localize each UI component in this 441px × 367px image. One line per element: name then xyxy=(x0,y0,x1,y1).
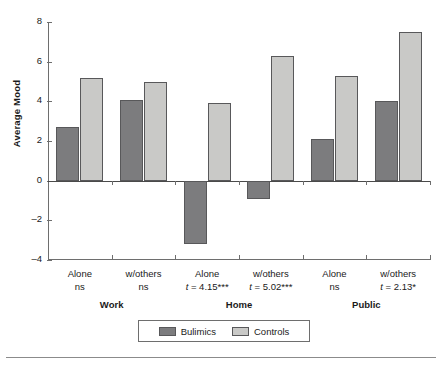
y-tick-4: 4 xyxy=(47,101,52,102)
zero-tick-4 xyxy=(366,181,367,185)
group-label-work: Work xyxy=(62,299,162,310)
zero-tick-1 xyxy=(175,181,176,185)
y-tick-neg2: –2 xyxy=(47,220,52,221)
bar-controls-3 xyxy=(271,56,294,181)
y-tick-label-6: 6 xyxy=(12,55,42,66)
category-name-3: w/others xyxy=(253,268,289,279)
x-tick-5 xyxy=(430,255,431,260)
y-tick-8: 8 xyxy=(47,22,52,23)
zero-tick-0 xyxy=(112,181,113,185)
chart-legend: Bulimics Controls xyxy=(138,320,310,342)
legend-swatch-controls xyxy=(232,327,249,336)
bar-controls-2 xyxy=(208,103,231,180)
y-tick-label-neg2: –2 xyxy=(12,213,42,224)
category-name-1: w/others xyxy=(126,268,162,279)
bar-bulimics-4 xyxy=(311,139,334,181)
bar-bulimics-5 xyxy=(375,101,398,180)
x-tick-3 xyxy=(303,255,304,260)
y-tick-6: 6 xyxy=(47,62,52,63)
plot-area: 8 6 4 2 0 –2 –4 xyxy=(48,22,430,260)
x-tick-2 xyxy=(239,255,240,260)
legend-item-controls: Controls xyxy=(232,326,289,337)
y-tick-label-4: 4 xyxy=(12,94,42,105)
y-tick-label-neg4: –4 xyxy=(12,253,42,264)
zero-tick-3 xyxy=(303,181,304,185)
x-tick-1 xyxy=(175,255,176,260)
y-tick-label-2: 2 xyxy=(12,134,42,145)
bar-bulimics-1 xyxy=(120,100,143,180)
zero-tick-5 xyxy=(430,181,431,185)
y-tick-label-0: 0 xyxy=(12,174,42,185)
bar-bulimics-0 xyxy=(56,127,79,181)
category-stat-5: t = 2.13* xyxy=(348,280,441,293)
bar-controls-5 xyxy=(399,32,422,181)
zero-tick-2 xyxy=(239,181,240,185)
group-label-home: Home xyxy=(189,299,289,310)
x-tick-4 xyxy=(366,255,367,260)
category-label-5: w/otherst = 2.13* xyxy=(348,267,441,293)
legend-swatch-bulimics xyxy=(159,327,176,336)
category-name-4: Alone xyxy=(322,268,346,279)
group-label-public: Public xyxy=(316,299,416,310)
y-tick-neg4: –4 xyxy=(47,260,52,261)
y-tick-2: 2 xyxy=(47,141,52,142)
legend-item-bulimics: Bulimics xyxy=(159,326,216,337)
bar-controls-0 xyxy=(80,78,103,181)
category-name-0: Alone xyxy=(68,268,92,279)
bar-bulimics-3 xyxy=(247,181,270,199)
y-axis-title: Average Mood xyxy=(11,64,22,164)
y-tick-label-8: 8 xyxy=(12,15,42,26)
chart-figure: Average Mood 8 6 4 2 0 –2 –4 Alonensw/ot… xyxy=(0,0,441,367)
category-name-5: w/others xyxy=(380,268,416,279)
bar-bulimics-2 xyxy=(184,181,207,244)
legend-label-controls: Controls xyxy=(254,326,289,337)
bar-controls-4 xyxy=(335,76,358,181)
bottom-divider xyxy=(6,357,436,358)
legend-label-bulimics: Bulimics xyxy=(181,326,216,337)
category-name-2: Alone xyxy=(195,268,219,279)
x-tick-0 xyxy=(112,255,113,260)
bar-controls-1 xyxy=(144,82,167,181)
